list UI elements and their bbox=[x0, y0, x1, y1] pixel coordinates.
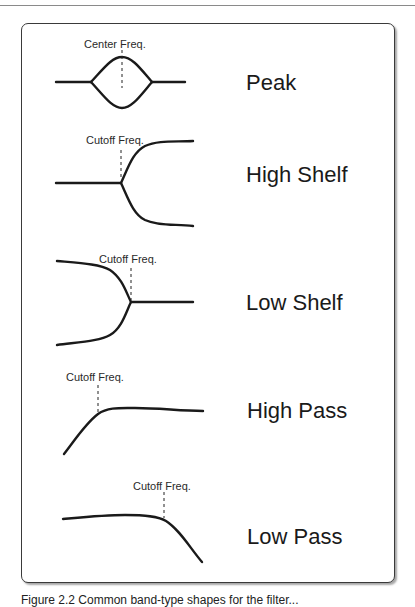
figure-caption: Figure 2.2 Common band-type shapes for t… bbox=[21, 594, 298, 606]
low-pass-curve bbox=[63, 515, 202, 562]
peak-label: Peak bbox=[246, 72, 296, 94]
low-shelf-label: Low Shelf bbox=[246, 292, 343, 314]
high-shelf-curve bbox=[56, 141, 193, 226]
low-shelf-curve bbox=[57, 261, 193, 345]
high-shelf-label: High Shelf bbox=[246, 164, 348, 186]
high-pass-label: High Pass bbox=[247, 400, 347, 422]
high-pass-curve bbox=[64, 408, 203, 454]
high-shelf-cutoff-freq-label: Cutoff Freq. bbox=[86, 135, 144, 146]
low-pass-label: Low Pass bbox=[247, 526, 342, 548]
peak-curve bbox=[56, 57, 185, 108]
low-shelf-cutoff-freq-label: Cutoff Freq. bbox=[99, 254, 157, 265]
peak-center-freq-label: Center Freq. bbox=[84, 39, 146, 50]
high-pass-cutoff-freq-label: Cutoff Freq. bbox=[66, 372, 124, 383]
low-pass-cutoff-freq-label: Cutoff Freq. bbox=[133, 481, 191, 492]
